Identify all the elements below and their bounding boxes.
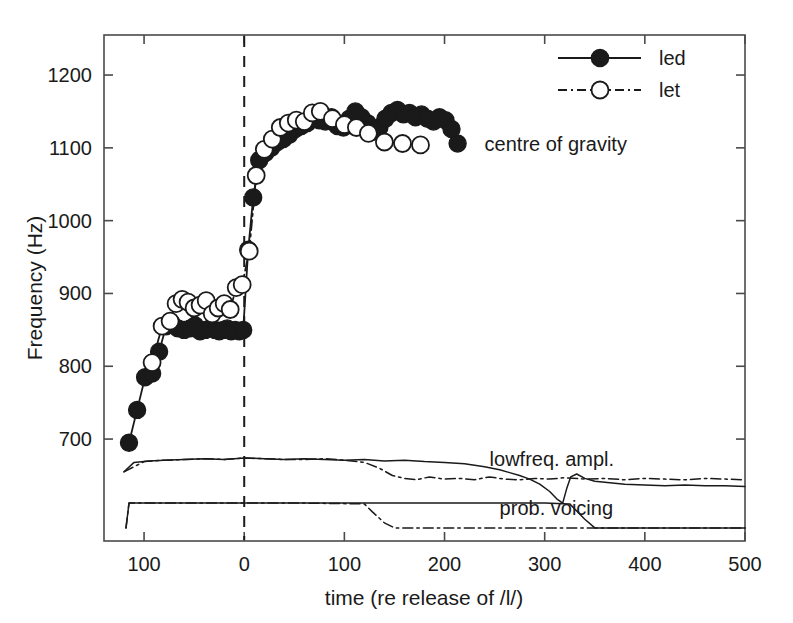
y-tick-label: 900 xyxy=(59,282,92,304)
x-axis-title: time (re release of /l/) xyxy=(325,586,523,609)
figure-centre-of-gravity: 1000100200300400500 70080090010001100120… xyxy=(0,0,793,623)
chart-canvas: 1000100200300400500 70080090010001100120… xyxy=(0,0,793,623)
x-tick-label: 200 xyxy=(428,553,461,575)
annotation-prob-voicing: prob. voicing xyxy=(500,497,613,519)
data-point-led xyxy=(449,135,466,152)
data-point-let xyxy=(234,276,251,293)
legend-label-let: let xyxy=(659,79,681,101)
data-point-let xyxy=(222,301,239,318)
data-point-let xyxy=(241,243,258,260)
y-tick-label: 1200 xyxy=(48,64,93,86)
legend-marker-led xyxy=(592,50,609,67)
y-tick-label: 1100 xyxy=(49,137,92,159)
data-point-led xyxy=(245,189,262,206)
x-tick-label: 100 xyxy=(127,553,160,575)
x-tick-label: 500 xyxy=(728,553,761,575)
data-point-led xyxy=(121,434,138,451)
data-point-let xyxy=(360,125,377,142)
x-tick-label: 300 xyxy=(528,553,561,575)
legend-marker-let xyxy=(592,82,609,99)
data-point-let xyxy=(162,313,179,330)
data-point-led xyxy=(235,321,252,338)
y-axis-title: Frequency (Hz) xyxy=(23,216,46,361)
y-tick-label: 1000 xyxy=(48,210,93,232)
annotation-centre-of-gravity: centre of gravity xyxy=(485,133,627,155)
data-point-let xyxy=(376,134,393,151)
annotation-lowfreq-ampl-: lowfreq. ampl. xyxy=(490,448,615,470)
x-tick-label: 400 xyxy=(628,553,661,575)
data-point-let xyxy=(248,167,265,184)
data-point-let xyxy=(394,135,411,152)
y-tick-label: 700 xyxy=(59,428,92,450)
x-tick-label: 0 xyxy=(239,553,250,575)
data-point-let xyxy=(412,136,429,153)
data-point-let xyxy=(144,354,161,371)
legend-label-led: led xyxy=(659,47,686,69)
y-tick-label: 800 xyxy=(59,355,92,377)
x-tick-label: 100 xyxy=(328,553,361,575)
data-point-led xyxy=(129,401,146,418)
